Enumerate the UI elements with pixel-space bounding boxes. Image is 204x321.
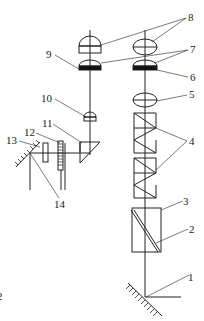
label-14: 14 bbox=[54, 198, 66, 210]
label-9: 9 bbox=[46, 48, 52, 60]
label-3: 3 bbox=[183, 195, 189, 207]
optical-diagram: 1 2 3 4 5 6 7 8 9 10 11 12 13 14 2 bbox=[0, 0, 204, 321]
label-4: 4 bbox=[189, 135, 195, 147]
mirror-1 bbox=[126, 283, 181, 316]
mirror-13 bbox=[15, 140, 40, 190]
label-1: 1 bbox=[188, 271, 194, 283]
leader-lines bbox=[19, 18, 189, 297]
beam-splitter-cube bbox=[131, 208, 161, 252]
label-6: 6 bbox=[190, 71, 196, 83]
label-13: 13 bbox=[6, 134, 18, 146]
label-10: 10 bbox=[41, 92, 53, 104]
label-edge-2: 2 bbox=[0, 290, 3, 302]
label-5: 5 bbox=[189, 88, 195, 100]
label-11: 11 bbox=[42, 117, 53, 129]
label-8: 8 bbox=[188, 11, 194, 23]
label-2: 2 bbox=[189, 223, 195, 235]
diagram-svg: 1 2 3 4 5 6 7 8 9 10 11 12 13 14 2 bbox=[0, 0, 204, 321]
label-12: 12 bbox=[24, 126, 35, 138]
label-7: 7 bbox=[190, 43, 196, 55]
grating-12 bbox=[58, 141, 65, 190]
labels: 1 2 3 4 5 6 7 8 9 10 11 12 13 14 2 bbox=[0, 11, 196, 302]
